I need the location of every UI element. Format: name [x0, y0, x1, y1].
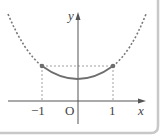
x-axis-label: x	[137, 103, 144, 118]
y-axis-label: y	[66, 8, 74, 23]
parabola-dashed-left	[8, 14, 42, 66]
endpoint-right	[111, 64, 116, 69]
origin-label: O	[65, 103, 74, 118]
endpoint-left	[40, 64, 45, 69]
parabola-diagram: y x O −1 1	[0, 0, 163, 136]
parabola-dashed-right	[113, 14, 146, 66]
x-tick-minus-1: −1	[31, 103, 45, 118]
x-tick-1: 1	[109, 103, 116, 118]
y-axis-arrow-icon	[76, 12, 81, 20]
